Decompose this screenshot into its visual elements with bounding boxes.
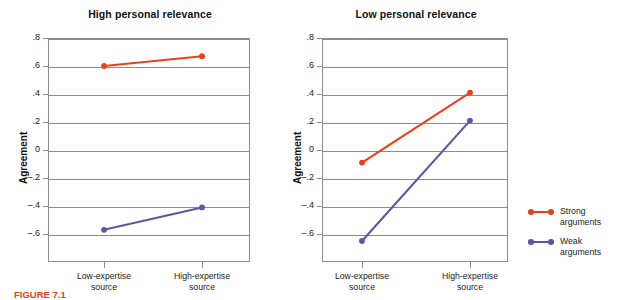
data-point-weak-1-1	[467, 118, 473, 124]
data-point-strong-1-0	[359, 160, 365, 166]
data-point-strong-1-1	[467, 90, 473, 96]
legend-dot-right-strong-arguments	[548, 209, 554, 215]
legend-swatch-strong-arguments	[528, 206, 554, 218]
legend-swatch-weak-arguments	[528, 236, 554, 248]
figure-caption: FIGURE 7.1	[14, 289, 66, 300]
series-line-strong-1	[362, 93, 470, 163]
legend-dot-left-strong-arguments	[528, 209, 534, 215]
legend-item-weak-arguments: Weak arguments	[528, 236, 601, 257]
legend-label-weak-arguments: Weak arguments	[560, 236, 601, 257]
legend-dot-left-weak-arguments	[528, 239, 534, 245]
legend-item-strong-arguments: Strong arguments	[528, 206, 601, 227]
legend-label-strong-arguments: Strong arguments	[560, 206, 601, 227]
data-point-weak-1-0	[359, 238, 365, 244]
legend-dot-right-weak-arguments	[548, 239, 554, 245]
series-line-weak-1	[362, 121, 470, 241]
